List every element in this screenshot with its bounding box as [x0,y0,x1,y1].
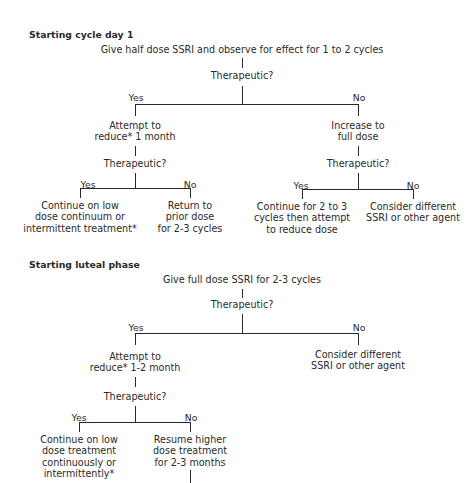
connector [190,470,191,483]
decision-therapeutic: Therapeutic? [327,158,390,169]
decision-therapeutic: Therapeutic? [211,70,274,81]
decision-therapeutic: Therapeutic? [104,391,167,402]
connector [190,188,191,198]
branch-line [80,188,191,189]
outcome-consider-different-ssri: Consider different SSRI or other agent [366,201,460,224]
connector [135,406,136,423]
branch-no-label: No [353,322,366,333]
connector [242,58,243,68]
connector [358,333,359,345]
connector [80,188,81,198]
outcome-consider-different-ssri: Consider different SSRI or other agent [311,349,405,372]
connector [79,422,80,432]
connector [135,173,136,189]
outcome-continue-then-reduce: Continue for 2 to 3 cycles then attempt … [254,201,350,235]
node-half-dose-ssri: Give half dose SSRI and observe for effe… [101,44,384,55]
connector [135,146,136,156]
node-increase-full-dose: Increase to full dose [331,120,384,143]
node-attempt-reduce: Attempt to reduce* 1 month [94,120,175,143]
branch-line [79,422,191,423]
branch-line [135,333,359,334]
outcome-resume-higher-dose: Resume higher dose treatment for 2-3 mon… [153,434,227,468]
node-full-dose-ssri: Give full dose SSRI for 2-3 cycles [163,274,321,285]
decision-therapeutic: Therapeutic? [211,299,274,310]
connector [358,146,359,156]
connector [302,189,303,199]
connector [242,289,243,298]
section-heading-cycle-day-1: Starting cycle day 1 [29,29,133,40]
connector [413,189,414,199]
branch-no-label: No [353,92,366,103]
connector [135,377,136,387]
section-heading-luteal-phase: Starting luteal phase [29,259,140,270]
connector [242,314,243,334]
connector [135,333,136,345]
connector [358,173,359,189]
connector [358,104,359,116]
connector [242,86,243,105]
decision-therapeutic: Therapeutic? [104,158,167,169]
outcome-continue-low-dose: Continue on low dose continuum or interm… [23,200,136,234]
connector [135,104,136,116]
outcome-continue-low-dose: Continue on low dose treatment continuou… [40,434,118,479]
node-attempt-reduce: Attempt to reduce* 1-2 month [90,351,181,374]
outcome-return-prior-dose: Return to prior dose for 2-3 cycles [158,200,223,234]
branch-line [135,104,359,105]
connector [190,422,191,432]
branch-line [302,189,414,190]
branch-yes-label: Yes [128,322,143,333]
branch-yes-label: Yes [128,92,143,103]
